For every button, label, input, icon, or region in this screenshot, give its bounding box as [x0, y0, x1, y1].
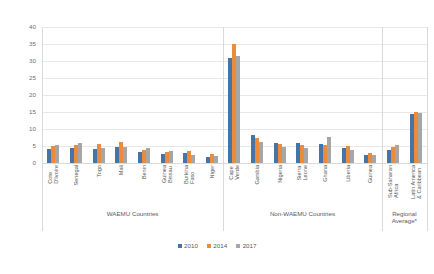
y-axis-tick-label: 0 — [33, 160, 36, 166]
chart-legend: 201020142017 — [0, 243, 434, 249]
x-axis-tick-label-line: Benin — [141, 165, 147, 179]
x-axis-tick-label-line: & Caribbean — [416, 165, 422, 199]
x-axis-tick-label-line: Africa — [393, 165, 399, 198]
bar-chart: 0510152025303540 CoteD'IvoireSenegalTogo… — [0, 0, 434, 274]
x-axis-tick-label: Ghana — [322, 165, 328, 182]
bar-group — [246, 27, 269, 163]
x-axis-tick-label-line: Guinea — [367, 165, 373, 183]
bar-2017[interactable] — [101, 148, 105, 163]
bar-2017[interactable] — [304, 148, 308, 163]
legend-label: 2010 — [184, 243, 198, 249]
legend-item-2017[interactable]: 2017 — [236, 243, 256, 249]
x-axis-tick-label-line: Guinea — [160, 165, 166, 183]
y-axis-ticks: 0510152025303540 — [0, 27, 40, 163]
y-axis-tick-label: 25 — [29, 75, 36, 81]
x-axis-tick-label-line: Mali — [118, 165, 124, 175]
x-axis-tick-label: Nigeria — [277, 165, 283, 183]
bars-layer — [42, 27, 427, 163]
bar-2017[interactable] — [372, 155, 376, 164]
y-axis-tick-label: 30 — [29, 58, 36, 64]
bar-2017[interactable] — [350, 150, 354, 163]
bar-group — [87, 27, 110, 163]
x-axis-label-slot: CapeVerde — [223, 164, 246, 206]
bar-group — [110, 27, 133, 163]
y-axis-tick-label: 10 — [29, 126, 36, 132]
x-axis-tick-label: Togo — [95, 165, 101, 177]
legend-item-2010[interactable]: 2010 — [178, 243, 198, 249]
legend-swatch-icon — [178, 244, 182, 248]
y-axis-tick-label: 5 — [33, 143, 36, 149]
x-axis-tick-label-line: Togo — [95, 165, 101, 177]
bar-2017[interactable] — [55, 145, 59, 163]
bar-2017[interactable] — [146, 148, 150, 163]
x-axis-label-slot: Sub-SaharanAfrica — [382, 164, 405, 206]
x-axis-tick-label-line: Leone — [302, 165, 308, 181]
legend-label: 2014 — [213, 243, 227, 249]
group-label-line: Regional — [382, 210, 427, 217]
x-axis-tick-label: Senegal — [73, 165, 79, 186]
bar-group — [359, 27, 382, 163]
group-label-line: Non-WAEMU Countries — [223, 210, 382, 217]
bar-group — [178, 27, 201, 163]
bar-2017[interactable] — [418, 113, 422, 163]
x-axis-label-slot: Guinea — [359, 164, 382, 206]
y-axis-tick-label: 15 — [29, 109, 36, 115]
x-axis-tick-label: SierraLeone — [296, 165, 308, 181]
bar-2017[interactable] — [395, 145, 399, 163]
group-label-line: Average* — [382, 217, 427, 224]
x-axis-tick-label-line: Gambia — [254, 165, 260, 185]
x-axis-label-slot: SierraLeone — [291, 164, 314, 206]
x-axis-tick-label-line: D'Ivoire — [53, 165, 59, 184]
y-axis-tick-label: 35 — [29, 41, 36, 47]
x-axis-group-labels: WAEMU CountriesNon-WAEMU CountriesRegion… — [42, 206, 427, 232]
x-axis-label-slot: Gambia — [246, 164, 269, 206]
bar-2017[interactable] — [282, 147, 286, 163]
x-axis-label-slot: Togo — [87, 164, 110, 206]
x-axis-label-slot: CoteD'Ivoire — [42, 164, 65, 206]
legend-swatch-icon — [236, 244, 240, 248]
bar-2017[interactable] — [191, 155, 195, 163]
bar-2017[interactable] — [236, 56, 240, 163]
x-axis-label-slot: Benin — [133, 164, 156, 206]
group-label-line: WAEMU Countries — [42, 210, 223, 217]
x-axis-tick-label-line: Ghana — [322, 165, 328, 182]
x-axis-tick-label: GuineaBissau — [160, 165, 172, 183]
x-axis-tick-label: Niger — [209, 165, 215, 178]
x-axis-tick-label-line: Bissau — [167, 165, 173, 183]
bar-group — [382, 27, 405, 163]
x-axis-tick-label-line: Nigeria — [277, 165, 283, 183]
bar-2017[interactable] — [259, 142, 263, 163]
bar-2017[interactable] — [78, 143, 82, 163]
x-axis-tick-label: Gambia — [254, 165, 260, 185]
bar-group — [65, 27, 88, 163]
bar-2017[interactable] — [123, 147, 127, 163]
x-axis-tick-label: CapeVerde — [228, 165, 240, 180]
bar-group — [314, 27, 337, 163]
x-axis-tick-label-line: Liberia — [345, 165, 351, 182]
x-axis-label-slot: Ghana — [314, 164, 337, 206]
bar-group — [291, 27, 314, 163]
bar-group — [200, 27, 223, 163]
x-axis-tick-label: BurkinaFaso — [183, 165, 195, 184]
group-label: RegionalAverage* — [382, 210, 427, 224]
bar-2017[interactable] — [169, 151, 173, 163]
y-axis-tick-label: 40 — [29, 24, 36, 30]
x-axis-tick-label: Liberia — [345, 165, 351, 182]
y-axis-tick-label: 20 — [29, 92, 36, 98]
x-axis-tick-label: Sub-SaharanAfrica — [387, 165, 399, 198]
bar-group — [268, 27, 291, 163]
x-axis-tick-label-line: Faso — [189, 165, 195, 184]
bar-2017[interactable] — [214, 156, 218, 163]
x-axis-tick-label: Mali — [118, 165, 124, 175]
x-axis-tick-label: CoteD'Ivoire — [47, 165, 59, 184]
x-axis-tick-label-line: Latin America — [409, 165, 415, 199]
legend-item-2014[interactable]: 2014 — [207, 243, 227, 249]
x-axis-label-slot: Latin America& Caribbean — [404, 164, 427, 206]
x-axis-label-slot: GuineaBissau — [155, 164, 178, 206]
plot-area — [42, 27, 427, 163]
plot-edge-line — [427, 27, 428, 231]
bar-2017[interactable] — [327, 137, 331, 163]
x-axis-label-slot: BurkinaFaso — [178, 164, 201, 206]
x-axis-label-slot: Mali — [110, 164, 133, 206]
legend-label: 2017 — [243, 243, 257, 249]
